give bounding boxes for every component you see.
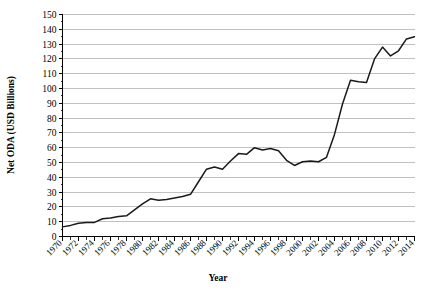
x-tick-label: 1998 — [268, 237, 288, 257]
y-axis-title: Net ODA (USD Billions) — [6, 76, 17, 174]
y-tick-label: 10 — [47, 217, 57, 227]
y-tick-label: 120 — [42, 54, 57, 64]
x-tick-label: 1984 — [156, 237, 176, 257]
x-tick-label: 2010 — [364, 237, 384, 257]
x-tick-label: 2006 — [332, 237, 352, 257]
x-tick-label: 2004 — [316, 237, 336, 257]
x-tick-label: 2008 — [348, 237, 368, 257]
y-tick-label: 50 — [47, 158, 57, 168]
y-tick-label: 140 — [42, 25, 57, 35]
x-tick-label: 1994 — [236, 237, 256, 257]
y-tick-label: 20 — [47, 202, 57, 212]
y-tick-label: 70 — [47, 128, 57, 138]
x-axis-title: Year — [209, 273, 229, 283]
series-line-1 — [63, 37, 415, 227]
x-tick-label: 1988 — [188, 237, 208, 257]
x-tick-label: 1992 — [220, 238, 240, 258]
x-tick-label: 1986 — [172, 237, 192, 257]
axis-lines-group — [63, 15, 415, 237]
x-tick-label: 1970 — [44, 237, 64, 257]
x-tick-label: 2002 — [300, 238, 320, 258]
x-tick-label: 1982 — [140, 238, 160, 258]
chart-figure: 0102030405060708090100110120130140150 19… — [0, 0, 435, 289]
line-chart: 0102030405060708090100110120130140150 19… — [0, 0, 435, 289]
y-tick-label: 30 — [47, 188, 57, 198]
y-tick-label: 100 — [42, 84, 57, 94]
x-tick-label: 1974 — [76, 237, 96, 257]
y-tick-label: 130 — [42, 40, 57, 50]
x-tick-label: 1978 — [108, 237, 128, 257]
y-tick-label: 60 — [47, 143, 57, 153]
x-tick-labels-group: 1970197219741976197819801982198419861988… — [44, 237, 416, 257]
x-tick-label: 2014 — [396, 237, 416, 257]
y-tick-label: 90 — [47, 99, 57, 109]
gridlines-group — [63, 15, 415, 222]
x-tick-label: 1990 — [204, 237, 224, 257]
x-tick-label: 2012 — [380, 238, 400, 258]
y-tick-label: 40 — [47, 173, 57, 183]
x-tick-label: 1980 — [124, 237, 144, 257]
x-tick-label: 1972 — [60, 238, 80, 258]
data-series-group — [63, 37, 415, 227]
x-tick-label: 1996 — [252, 237, 272, 257]
y-tick-labels-group: 0102030405060708090100110120130140150 — [42, 10, 57, 242]
x-tick-label: 2000 — [284, 237, 304, 257]
y-tick-label: 80 — [47, 114, 57, 124]
x-tick-label: 1976 — [92, 237, 112, 257]
y-tick-label: 150 — [42, 10, 57, 20]
y-tick-label: 110 — [43, 69, 57, 79]
